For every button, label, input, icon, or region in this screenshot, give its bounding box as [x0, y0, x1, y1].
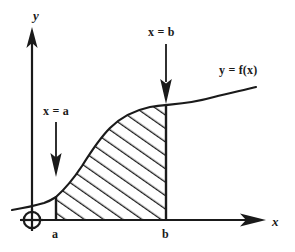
callout-arrow-b-icon	[160, 44, 172, 104]
callout-label-a: x = a	[43, 105, 69, 117]
curve-label: y = f(x)	[219, 64, 257, 76]
y-axis-label: y	[33, 9, 39, 22]
tick-label-a: a	[52, 228, 58, 240]
callout-label-b: x = b	[148, 26, 175, 38]
origin-marker-icon	[21, 209, 43, 231]
integral-diagram: y x y = f(x) x = b x = a a b	[0, 0, 295, 252]
callout-arrow-a-icon	[50, 122, 61, 177]
tick-label-b: b	[162, 228, 169, 240]
x-axis-label: x	[272, 215, 279, 228]
